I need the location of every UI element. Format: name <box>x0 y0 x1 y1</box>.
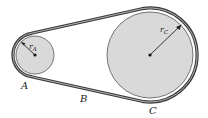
diagram-canvas: rA rC A B C <box>0 0 208 118</box>
center-dot-a <box>33 53 36 56</box>
belt-pulley-diagram: rA rC A B C <box>0 0 208 118</box>
label-point-b: B <box>79 93 87 104</box>
label-point-c: C <box>149 105 157 116</box>
label-point-a: A <box>20 80 28 91</box>
center-dot-c <box>148 53 151 56</box>
